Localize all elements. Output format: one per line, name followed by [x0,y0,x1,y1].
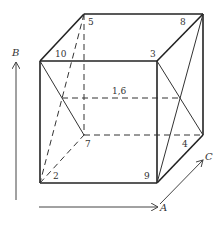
vertex-label-2: 2 [53,171,59,181]
vertex-label-7: 7 [85,139,91,149]
axis-label-a: A [159,202,167,213]
vertex-label-4: 4 [182,139,188,149]
front-face [40,61,157,183]
vertex-label-10: 10 [55,49,67,59]
axis-label-c: C [205,151,213,162]
cube-diagram: 5 8 10 3 1,6 7 4 2 9 B A C [0,0,221,226]
vertex-label-9: 9 [144,171,150,181]
vertex-label-1-6: 1,6 [112,86,127,96]
vertex-label-8: 8 [180,17,186,27]
vertex-label-3: 3 [150,49,156,59]
vertex-label-5: 5 [88,17,94,27]
axis-c-arrow [160,160,203,204]
axis-label-b: B [11,47,19,58]
vertex-labels: 5 8 10 3 1,6 7 4 2 9 [53,17,188,181]
